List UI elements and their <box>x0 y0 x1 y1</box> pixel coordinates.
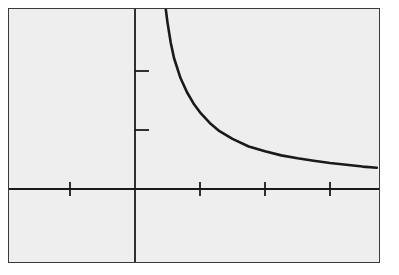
figure-root: Reciprocal function graph line y = 1/x <box>0 0 399 275</box>
plot-canvas <box>9 9 379 262</box>
series-curve-0 <box>162 9 376 168</box>
plot-frame <box>8 8 380 263</box>
